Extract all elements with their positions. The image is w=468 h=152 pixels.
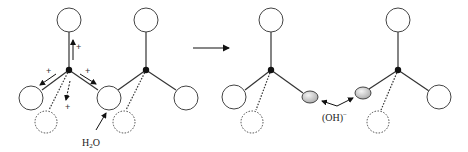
charge-right: + [85, 66, 90, 76]
atom-back [113, 111, 135, 133]
molecule-left-a: + + + + [19, 8, 98, 133]
charge-top: + [76, 42, 81, 52]
atom-top [134, 8, 158, 32]
atom-center [268, 67, 274, 73]
reaction-diagram: + + + + H2O [0, 0, 468, 152]
water-arrow-icon [96, 113, 106, 130]
arrow-down-icon [66, 81, 70, 100]
ion-right [355, 87, 371, 99]
atom-back [367, 111, 389, 133]
atom-center [395, 67, 401, 73]
molecule-right-b [355, 8, 451, 133]
atom-top [386, 8, 410, 32]
atom-top [57, 8, 81, 32]
atom-top [259, 8, 283, 32]
hydroxide-arrow-right-icon [337, 98, 353, 106]
water-label: H2O [82, 137, 100, 150]
charge-left: + [46, 66, 51, 76]
atom-right [174, 86, 198, 110]
charge-bottom: + [65, 102, 70, 112]
atom-center [143, 67, 149, 73]
molecule-left-b [97, 8, 198, 133]
atom-shared [97, 86, 121, 110]
atom-left [19, 86, 43, 110]
molecule-right-a [222, 8, 318, 133]
hydroxide-label: (OH)− [322, 111, 347, 124]
atom-left [222, 85, 246, 109]
atom-right [427, 85, 451, 109]
hydroxide-arrow-left-icon [322, 101, 337, 106]
ion-left [302, 91, 318, 103]
atom-back [35, 111, 57, 133]
atom-center [66, 67, 72, 73]
bond-right [69, 70, 98, 90]
atom-back [241, 111, 263, 133]
